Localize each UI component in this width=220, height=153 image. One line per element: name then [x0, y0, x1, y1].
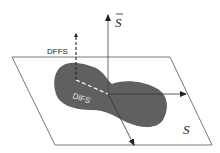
data-manifold-blob [54, 63, 167, 127]
plane-s-label: S [183, 122, 190, 137]
subspace-diagram: DFFS DIFS S S [0, 0, 220, 153]
orthogonal-label: S [115, 14, 123, 30]
s-bar-label: S [115, 15, 122, 30]
dffs-label: DFFS [47, 47, 68, 56]
